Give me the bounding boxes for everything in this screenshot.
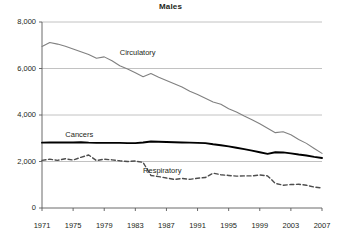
x-axis-tick-label: 1995 [214,221,244,230]
y-axis-tick-label: 6,000 [2,64,36,73]
x-axis-tick-label: 1971 [27,221,57,230]
y-axis-tick-label: 4,000 [2,110,36,119]
gridlines [42,22,322,208]
x-axis-tick-label: 1983 [120,221,150,230]
x-axis-tick-label: 1979 [89,221,119,230]
y-axis-tick-label: 0 [2,203,36,212]
y-axis-tick-label: 2,000 [2,157,36,166]
axis-ticks [39,22,322,211]
x-axis-tick-label: 1975 [58,221,88,230]
x-axis-tick-label: 1999 [245,221,275,230]
x-axis-tick-label: 2007 [307,221,337,230]
plot-area [0,0,341,237]
x-axis-tick-label: 1987 [151,221,181,230]
series-line-respiratory [42,155,322,188]
series-label-cancers: Cancers [65,130,93,139]
x-axis-tick-label: 2003 [276,221,306,230]
series-label-circulatory: Circulatory [120,48,156,57]
series-line-cancers [42,142,322,159]
chart-container: Males 02,0004,0006,0008,000 197119751979… [0,0,341,237]
series-label-respiratory: Respiratory [143,166,181,175]
y-axis-tick-label: 8,000 [2,17,36,26]
x-axis-tick-label: 1991 [183,221,213,230]
